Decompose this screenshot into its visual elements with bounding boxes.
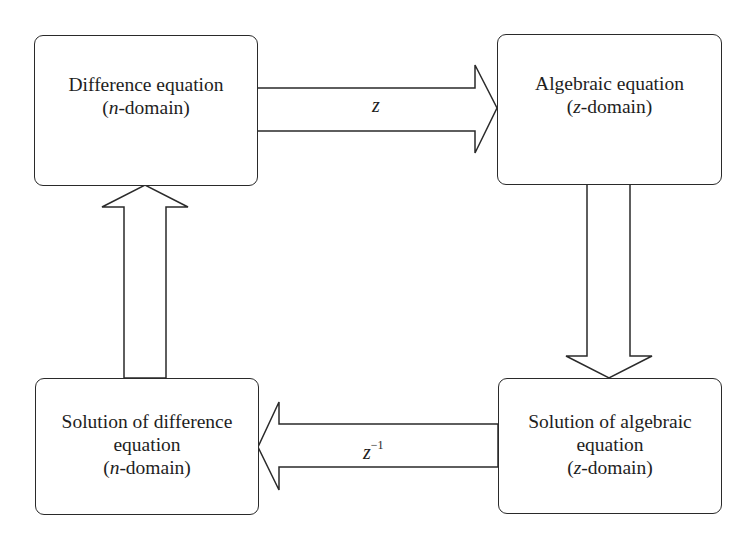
node-text: Solution of difference xyxy=(62,411,233,432)
diagram-canvas: Difference equation (n-domain) Algebraic… xyxy=(0,0,752,539)
node-text: Solution of algebraic xyxy=(528,411,692,432)
node-text: equation xyxy=(113,434,180,455)
arrow-label-base: z xyxy=(363,441,371,463)
node-text: -domain) xyxy=(119,457,190,478)
node-label-line: (n-domain) xyxy=(102,96,190,119)
arrow-label-base: z xyxy=(372,94,380,116)
node-text: -domain) xyxy=(581,96,652,117)
node-text: equation xyxy=(576,434,643,455)
node-label-line: (z-domain) xyxy=(567,95,653,118)
node-text: Difference equation xyxy=(68,74,223,95)
node-label-line: equation xyxy=(113,433,180,456)
node-algebraic-equation: Algebraic equation (z-domain) xyxy=(497,34,722,185)
node-label-line: equation xyxy=(576,433,643,456)
node-label-line: (z-domain) xyxy=(567,456,653,479)
node-label-line: Solution of algebraic xyxy=(528,410,692,433)
node-difference-equation: Difference equation (n-domain) xyxy=(34,35,258,186)
arrow-label-z-transform: z xyxy=(372,95,380,115)
node-solution-difference-equation: Solution of difference equation (n-domai… xyxy=(35,378,259,515)
node-text: -domain) xyxy=(118,97,189,118)
node-text-italic-variable: n xyxy=(109,97,119,118)
node-label-line: (n-domain) xyxy=(103,456,191,479)
node-label-line: Solution of difference xyxy=(62,410,233,433)
node-text: -domain) xyxy=(581,457,652,478)
node-text: Algebraic equation xyxy=(535,73,684,94)
arrow-up-return xyxy=(102,185,188,378)
node-solution-algebraic-equation: Solution of algebraic equation (z-domain… xyxy=(498,378,722,514)
node-label-line: Algebraic equation xyxy=(535,72,684,95)
node-text-italic-variable: n xyxy=(110,457,120,478)
arrow-down-solve xyxy=(566,184,652,378)
arrow-label-inverse-z-transform: z−1 xyxy=(363,437,384,462)
node-label-line: Difference equation xyxy=(68,73,223,96)
node-text-italic-variable: z xyxy=(573,96,581,117)
arrow-label-superscript: −1 xyxy=(371,438,384,452)
